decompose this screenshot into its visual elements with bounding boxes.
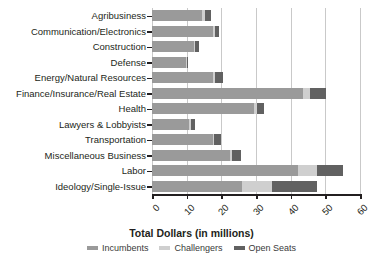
y-axis-label: Ideology/Single-Issue [0,181,146,192]
y-axis-tick [147,109,152,111]
bar-segment [152,165,298,176]
x-axis-tick [360,194,362,199]
bar-group [152,165,360,176]
bar-segment [152,103,254,114]
bar-segment [152,72,213,83]
x-axis-tick [152,194,154,199]
y-axis-tick [147,124,152,126]
bar-segment [152,181,242,192]
bar-segment [152,57,186,68]
bar-segment [257,103,264,114]
bar-segment [298,165,317,176]
bar-segment [195,41,199,52]
x-axis-tick [325,194,327,199]
y-axis-tick [147,31,152,33]
y-axis-tick [147,155,152,157]
bar-segment [310,88,327,99]
x-axis-tick [291,194,293,199]
bar-segment [152,88,303,99]
y-axis-label: Defense [0,57,146,68]
bar-segment [152,134,213,145]
bar-group [152,88,360,99]
bar-segment [152,119,189,130]
bar-group [152,57,360,68]
y-axis-label: Lawyers & Lobbyists [0,119,146,130]
bar-segment [205,10,211,21]
legend-label: Open Seats [249,243,297,253]
bar-segment [214,134,220,145]
y-axis-tick [147,16,152,18]
bar-segment [232,150,242,161]
y-axis-label: Health [0,103,146,114]
x-axis-title: Total Dollars (in millions) [0,227,383,239]
plot-area [152,8,360,194]
bar-segment [152,26,213,37]
bar-segment [215,26,219,37]
bar-segment [242,181,271,192]
bar-segment [272,181,317,192]
bar-chart: AgribusinessCommunication/ElectronicsCon… [0,0,383,260]
bar-group [152,41,360,52]
y-axis-tick [147,62,152,64]
bar-group [152,181,360,192]
bar-group [152,150,360,161]
gridline [360,8,361,194]
legend-swatch-icon [87,246,98,250]
y-axis-label: Transportation [0,134,146,145]
bar-group [152,26,360,37]
y-axis-tick [147,186,152,188]
bar-group [152,134,360,145]
y-axis-label: Communication/Electronics [0,26,146,37]
bar-segment [317,165,343,176]
bar-segment [187,57,188,68]
bar-group [152,119,360,130]
bar-segment [152,41,194,52]
y-axis-tick [147,47,152,49]
y-axis-label: Energy/Natural Resources [0,72,146,83]
x-axis-tick [256,194,258,199]
bar-group [152,72,360,83]
bar-group [152,103,360,114]
y-axis-label: Labor [0,165,146,176]
bar-segment [152,150,230,161]
legend-swatch-icon [159,246,170,250]
bar-segment [191,119,195,130]
y-axis-tick [147,171,152,173]
y-axis-labels: AgribusinessCommunication/ElectronicsCon… [0,8,146,194]
y-axis-label: Miscellaneous Business [0,150,146,161]
legend-label: Challengers [174,243,222,253]
y-axis-tick [147,140,152,142]
y-axis-label: Agribusiness [0,10,146,21]
legend-item: Incumbents [87,243,149,253]
legend-item: Open Seats [234,243,297,253]
x-axis-tick [221,194,223,199]
bar-group [152,10,360,21]
bar-segment [215,72,223,83]
bar-segment [303,88,310,99]
y-axis-label: Finance/Insurance/Real Estate [0,88,146,99]
bar-segment [152,10,202,21]
chart-legend: IncumbentsChallengersOpen Seats [0,243,383,253]
y-axis-tick [147,78,152,80]
legend-swatch-icon [234,246,245,250]
x-axis-tick [187,194,189,199]
y-axis-label: Construction [0,41,146,52]
legend-label: Incumbents [102,243,149,253]
legend-item: Challengers [159,243,222,253]
y-axis-tick [147,93,152,95]
